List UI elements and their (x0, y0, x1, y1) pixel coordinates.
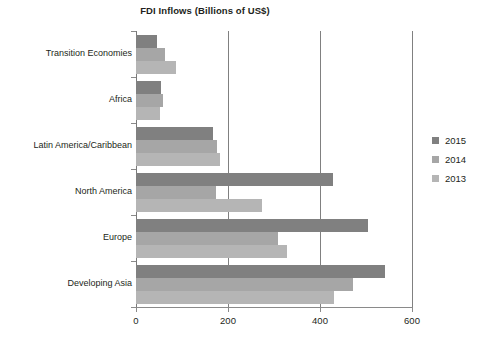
x-axis-tick-label: 400 (298, 315, 342, 326)
bar (136, 219, 368, 232)
x-axis-tick (228, 307, 229, 312)
legend-label: 2014 (445, 154, 466, 165)
bar (136, 245, 287, 258)
chart-title: FDI Inflows (Billions of US$) (0, 5, 410, 16)
bar-group (136, 261, 412, 307)
bar (136, 153, 220, 166)
legend-item: 2013 (432, 169, 490, 188)
category-label: Developing Asia (4, 278, 132, 288)
legend-swatch-icon (432, 156, 439, 163)
bar-group (136, 169, 412, 215)
chart-legend: 201520142013 (432, 131, 490, 188)
legend-label: 2015 (445, 135, 466, 146)
category-label: Latin America/Caribbean (4, 140, 132, 150)
legend-item: 2014 (432, 150, 490, 169)
bar (136, 94, 163, 107)
bar (136, 186, 216, 199)
bar (136, 35, 157, 48)
category-label: Africa (4, 94, 132, 104)
legend-item: 2015 (432, 131, 490, 150)
plot-area (136, 31, 412, 307)
bar (136, 199, 262, 212)
bar (136, 232, 278, 245)
bar (136, 127, 213, 140)
x-axis-tick-label: 200 (206, 315, 250, 326)
bar (136, 61, 176, 74)
bar (136, 173, 333, 186)
x-axis-line (136, 307, 413, 308)
gridline-600 (412, 31, 413, 307)
bar (136, 107, 160, 120)
x-axis-tick (320, 307, 321, 312)
category-label: Transition Economies (4, 48, 132, 58)
bar-group (136, 215, 412, 261)
legend-swatch-icon (432, 137, 439, 144)
x-axis-tick (136, 307, 137, 312)
bar (136, 291, 334, 304)
x-axis-tick-label: 600 (390, 315, 434, 326)
legend-label: 2013 (445, 173, 466, 184)
bar (136, 81, 161, 94)
bar (136, 265, 385, 278)
bar-group (136, 77, 412, 123)
bar-group (136, 31, 412, 77)
bar-group (136, 123, 412, 169)
category-label: Europe (4, 232, 132, 242)
x-axis-tick (412, 307, 413, 312)
legend-swatch-icon (432, 175, 439, 182)
category-label: North America (4, 186, 132, 196)
bar (136, 278, 353, 291)
bar (136, 140, 217, 153)
x-axis-tick-label: 0 (114, 315, 158, 326)
category-axis-labels: Transition EconomiesAfricaLatin America/… (0, 31, 132, 307)
bar (136, 48, 165, 61)
fdi-inflows-bar-chart: FDI Inflows (Billions of US$) Transition… (0, 0, 495, 348)
